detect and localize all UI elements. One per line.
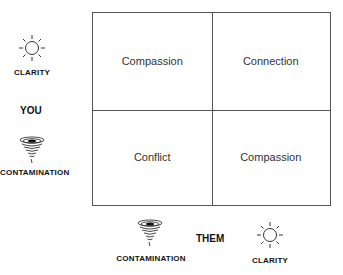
y-bottom-label: CONTAMINATION [0, 168, 66, 177]
quadrant-top-right: Connection [212, 13, 331, 109]
y-top-label: CLARITY [12, 68, 52, 77]
quadrant-bottom-left: Conflict [93, 109, 212, 205]
quadrant-top-left: Compassion [93, 13, 212, 109]
quadrant-bottom-right: Compassion [212, 109, 331, 205]
sun-icon [18, 34, 46, 62]
tornado-icon [136, 218, 164, 248]
y-axis-title: YOU [20, 105, 42, 116]
tornado-icon [18, 135, 46, 165]
x-left-label: CONTAMINATION [113, 254, 189, 263]
quadrant-grid: Compassion Connection Conflict Compassio… [92, 12, 331, 206]
sun-icon [256, 221, 284, 249]
x-right-label: CLARITY [250, 256, 290, 265]
x-axis-title: THEM [196, 233, 224, 244]
